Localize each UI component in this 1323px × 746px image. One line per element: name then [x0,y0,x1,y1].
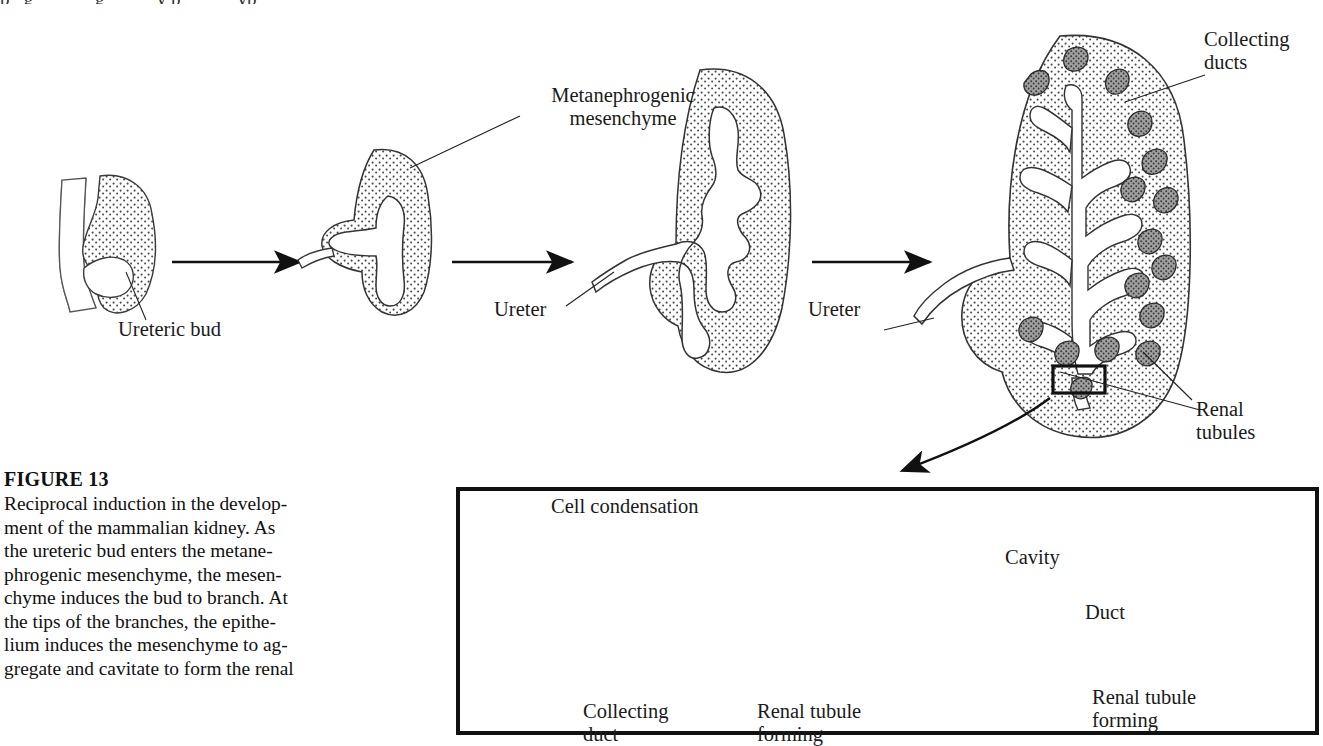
label-renal-tubule-line2: forming [1092,709,1158,731]
caption-line: phrogenic mesenchyme, the mesen- [4,563,334,587]
label-renal-tubule-line1: Renal tubule [1092,686,1196,708]
caption-line: ment of the mammalian kidney. As [4,516,334,540]
label-renal-tubules-line1: Renal [1196,398,1244,420]
caption-line: Reciprocal induction in the develop- [4,492,334,516]
stage-t-bud [298,116,520,315]
stage-mature-kidney [884,35,1205,437]
label-metanephrogenic-mesenchyme-line2: mesenchyme [569,107,676,129]
label-collecting-duct-line2: duct [583,723,618,745]
label-cell-condensation: Cell condensation [551,495,698,518]
label-renal-tubule-forming-mid: Renal tubuleforming [757,700,861,746]
label-ureter-stage3: Ureter [494,298,546,321]
label-collecting-duct-line1: Collecting [583,700,668,722]
label-collecting-duct: Collectingduct [583,700,668,746]
label-duct: Duct [1085,601,1125,624]
caption-line: chyme induces the bud to branch. At [4,586,334,610]
label-ureteric-bud: Ureteric bud [118,318,221,341]
label-collecting-ducts-line1: Collecting [1204,28,1289,50]
label-cavity: Cavity [1005,546,1060,569]
figure-caption-body: Reciprocal induction in the develop-ment… [4,492,334,681]
label-collecting-ducts-line2: ducts [1204,51,1247,73]
label-ureter-stage4: Ureter [808,298,860,321]
label-renal-tubules: Renaltubules [1196,398,1255,444]
figure-caption: FIGURE 13 Reciprocal induction in the de… [4,468,334,681]
label-renal-tubule-forming-mid-line1: Renal tubule [757,700,861,722]
label-metanephrogenic-mesenchyme-line1: Metanephrogenic [551,84,694,106]
label-renal-tubules-line2: tubules [1196,421,1255,443]
label-renal-tubule-forming-mid-line2: forming [757,723,823,745]
caption-line: lium induces the mesenchyme to ag- [4,633,334,657]
caption-line: the tips of the branches, the epithe- [4,610,334,634]
label-metanephrogenic-mesenchyme: Metanephrogenicmesenchyme [518,84,728,130]
caption-line: gregate and cavitate to form the renal [4,657,334,681]
figure-number: FIGURE 13 [4,468,334,491]
stage-ureteric-bud [59,175,155,320]
label-renal-tubule: Renal tubuleforming [1092,686,1196,732]
label-collecting-ducts: Collectingducts [1204,28,1289,74]
caption-line: the ureteric bud enters the metane- [4,539,334,563]
